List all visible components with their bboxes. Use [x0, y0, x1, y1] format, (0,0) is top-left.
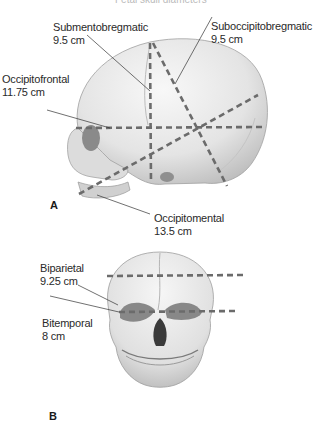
- occipitomental-name: Occipitomental: [154, 212, 224, 225]
- biparietal-value: 9.25 cm: [40, 275, 84, 288]
- occipitomental-value: 13.5 cm: [154, 225, 224, 238]
- submentobregmatic-value: 9.5 cm: [53, 34, 148, 47]
- occipitofrontal-value: 11.75 cm: [2, 86, 69, 99]
- biparietal-name: Biparietal: [40, 262, 84, 275]
- suboccipitobregmatic-label: Suboccipitobregmatic 9.5 cm: [211, 20, 312, 46]
- frontal-skull: [108, 252, 214, 387]
- suboccipitobregmatic-value: 9.5 cm: [211, 33, 312, 46]
- skull-illustration: [0, 0, 319, 422]
- panel-a-letter: A: [50, 199, 58, 211]
- biparietal-label: Biparietal 9.25 cm: [40, 262, 84, 288]
- bitemporal-name: Bitemporal: [42, 317, 93, 330]
- occipitofrontal-name: Occipitofrontal: [2, 73, 69, 86]
- bitemporal-label: Bitemporal 8 cm: [42, 317, 93, 343]
- occipitofrontal-label: Occipitofrontal 11.75 cm: [2, 73, 69, 99]
- lateral-skull: [67, 39, 267, 198]
- suboccipitobregmatic-name: Suboccipitobregmatic: [211, 20, 312, 33]
- occipitomental-label: Occipitomental 13.5 cm: [154, 212, 224, 238]
- bitemporal-value: 8 cm: [42, 330, 93, 343]
- panel-b-letter: B: [49, 410, 57, 422]
- submentobregmatic-name: Submentobregmatic: [53, 21, 148, 34]
- submentobregmatic-label: Submentobregmatic 9.5 cm: [53, 21, 148, 47]
